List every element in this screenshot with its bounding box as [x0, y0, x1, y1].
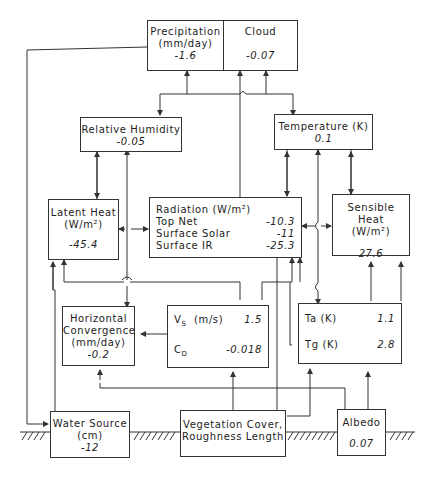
sensible-heat-box: Sensible Heat (W/m²) 27.6 [332, 194, 410, 256]
relative-humidity-box: Relative Humidity -0.05 [80, 117, 182, 152]
wind-speed-row: VS (m/s)1.5 [168, 314, 268, 330]
ground-temperature-row: Tg (K)2.8 [299, 339, 401, 351]
horizontal-convergence-value: -0.2 [63, 349, 134, 361]
radiation-row-surface-ir: Surface IR-25.3 [150, 240, 301, 252]
surface-temperatures-box: Ta (K)1.1 Tg (K)2.8 [298, 303, 402, 364]
wind-drag-box: VS (m/s)1.5 CD-0.018 [167, 305, 269, 368]
albedo-box: Albedo 0.07 [337, 409, 386, 456]
latent-heat-label: Latent Heat [49, 207, 118, 219]
precipitation-box: Precipitation (mm/day) -1.6 [147, 20, 224, 71]
horizontal-convergence-unit: (mm/day) [63, 337, 134, 349]
latent-heat-unit: (W/m²) [49, 219, 118, 231]
air-temperature-row: Ta (K)1.1 [299, 313, 401, 325]
sensible-heat-label: Sensible Heat [333, 202, 409, 226]
water-source-label: Water Source [51, 418, 129, 430]
cloud-value: -0.07 [224, 50, 297, 62]
radiation-row-surface-solar: Surface Solar-11 [150, 228, 301, 240]
sensible-heat-unit: (W/m²) [333, 226, 409, 238]
precipitation-value: -1.6 [148, 50, 223, 62]
precipitation-unit: (mm/day) [148, 38, 223, 50]
roughness-length-label: Roughness Length [181, 431, 285, 443]
latent-heat-value: -45.4 [49, 239, 118, 251]
radiation-label: Radiation (W/m²) [156, 204, 251, 216]
radiation-row-top-net: Top Net-10.3 [150, 216, 301, 228]
vegetation-label: Vegetation Cover, [181, 419, 285, 431]
radiation-box: Radiation (W/m²) Top Net-10.3 Surface So… [149, 197, 302, 258]
relative-humidity-label: Relative Humidity [81, 124, 181, 136]
water-source-box: Water Source (cm) -12 [50, 411, 130, 458]
albedo-label: Albedo [338, 417, 385, 429]
sensible-heat-value: 27.6 [333, 248, 409, 260]
temperature-label: Temperature (K) [275, 121, 372, 133]
horizontal-convergence-box: Horizontal Convergence (mm/day) -0.2 [62, 306, 135, 366]
vegetation-box: Vegetation Cover, Roughness Length [180, 410, 286, 457]
relative-humidity-value: -0.05 [81, 136, 181, 148]
drag-coefficient-row: CD-0.018 [168, 344, 268, 360]
temperature-box: Temperature (K) 0.1 [274, 114, 373, 150]
water-source-unit: (cm) [51, 430, 129, 442]
latent-heat-box: Latent Heat (W/m²) -45.4 [48, 199, 119, 260]
precipitation-label: Precipitation [148, 26, 223, 38]
water-source-value: -12 [51, 442, 129, 454]
temperature-value: 0.1 [275, 133, 372, 145]
cloud-box: Cloud -0.07 [223, 20, 298, 71]
albedo-value: 0.07 [338, 438, 385, 450]
cloud-label: Cloud [224, 26, 297, 38]
horizontal-convergence-label: Horizontal [63, 313, 134, 325]
